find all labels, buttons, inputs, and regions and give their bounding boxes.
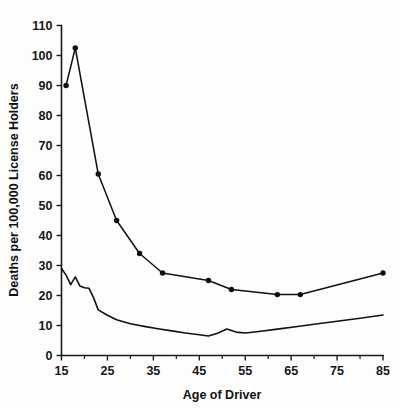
data-point-marker [229,287,234,292]
y-tick-label-30: 30 [39,259,53,273]
x-tick-label-65: 65 [284,364,298,378]
data-point-marker [298,292,303,297]
line-chart: 0102030405060708090100110 15253545556575… [0,0,401,410]
data-point-marker [114,218,119,223]
x-axis-title: Age of Driver [183,388,262,402]
axes [62,26,384,356]
y-tick-label-60: 60 [39,169,53,183]
y-tick-label-80: 80 [39,109,53,123]
x-tick-label-15: 15 [55,364,69,378]
data-point-marker [137,251,142,256]
data-point-markers [63,45,385,297]
x-tick-label-45: 45 [192,364,206,378]
y-tick-label-90: 90 [39,79,53,93]
y-tick-label-10: 10 [39,319,53,333]
data-point-marker [160,270,165,275]
data-point-marker [73,45,78,50]
y-axis-title: Deaths per 100,000 License Holders [7,83,21,296]
y-tick-label-20: 20 [39,289,53,303]
chart-figure: 0102030405060708090100110 15253545556575… [0,0,401,410]
x-tick-label-85: 85 [376,364,390,378]
x-tick-label-35: 35 [146,364,160,378]
y-tick-label-50: 50 [39,199,53,213]
x-tick-label-75: 75 [330,364,344,378]
x-tick-label-55: 55 [238,364,252,378]
data-point-marker [206,278,211,283]
data-series [62,48,384,336]
data-point-marker [380,270,385,275]
y-tick-label-70: 70 [39,139,53,153]
x-tick-label-25: 25 [100,364,114,378]
y-tick-label-40: 40 [39,229,53,243]
series-line-1 [62,269,384,337]
data-point-marker [96,171,101,176]
y-tick-label-110: 110 [32,19,52,33]
axis-spine [62,26,384,356]
series-line-0 [66,48,383,295]
x-axis-tick-labels: 1525354555657585 [55,364,390,378]
y-tick-label-0: 0 [46,349,53,363]
y-axis-tick-labels: 0102030405060708090100110 [32,19,53,363]
data-point-marker [63,83,68,88]
data-point-marker [275,292,280,297]
y-tick-label-100: 100 [32,49,53,63]
